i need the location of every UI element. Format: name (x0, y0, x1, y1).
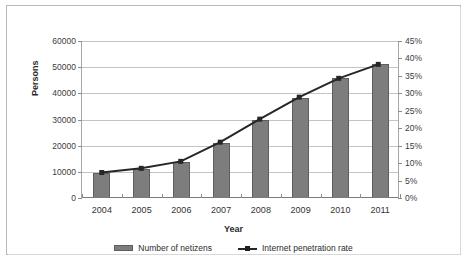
x-axis-tick (360, 194, 361, 198)
x-axis-title: Year (7, 224, 460, 234)
y-axis-tick-label: 10000 (52, 167, 76, 177)
legend-label-netizens: Number of netizens (138, 243, 212, 253)
x-axis-tick-label: 2006 (171, 205, 191, 215)
y2-axis-tick (398, 41, 402, 42)
y2-axis-tick-label: 0% (405, 193, 417, 203)
x-axis-tick-label: 2004 (92, 205, 112, 215)
y2-axis-tick (398, 76, 402, 77)
legend-label-penetration-rate: Internet penetration rate (262, 243, 353, 253)
chart-screenshot: Persons 0100002000030000400005000060000 … (0, 0, 469, 264)
y2-axis-tick (398, 163, 402, 164)
line-marker (139, 166, 144, 171)
x-axis-tick (321, 194, 322, 198)
y2-axis-tick (398, 181, 402, 182)
x-axis-tick-label: 2008 (251, 205, 271, 215)
y-axis-tick-label: 60000 (52, 36, 76, 46)
x-axis-tick-label: 2010 (330, 205, 350, 215)
y-axis-tick-label: 40000 (52, 88, 76, 98)
y2-axis-tick-label: 25% (405, 106, 422, 116)
x-axis-tick (162, 194, 163, 198)
x-axis-tick (122, 194, 123, 198)
y2-axis-tick (398, 198, 402, 199)
x-axis-tick (82, 194, 83, 198)
y-axis-tick (78, 198, 82, 199)
chart-frame: Persons 0100002000030000400005000060000 … (6, 5, 461, 255)
x-axis-tick-label: 2007 (211, 205, 231, 215)
line-marker (376, 62, 381, 67)
y-axis-tick-label: 30000 (52, 115, 76, 125)
y2-axis-tick-label: 35% (405, 71, 422, 81)
y-axis-tick-label: 50000 (52, 62, 76, 72)
line-marker (99, 170, 104, 175)
y2-axis-tick-label: 20% (405, 123, 422, 133)
x-axis-tick (201, 194, 202, 198)
y2-axis-tick (398, 146, 402, 147)
y2-axis-tick-label: 40% (405, 53, 422, 63)
y2-axis-tick-label: 30% (405, 88, 422, 98)
line-series-group (82, 41, 398, 198)
x-axis-tick (281, 194, 282, 198)
x-axis-tick (241, 194, 242, 198)
x-axis-tick-label: 2005 (132, 205, 152, 215)
legend-item-penetration-rate: Internet penetration rate (238, 243, 353, 253)
plot-area: 0100002000030000400005000060000 0%5%10%1… (81, 41, 399, 198)
y-axis-tick-label: 20000 (52, 141, 76, 151)
y2-axis-tick (398, 111, 402, 112)
line-marker (297, 95, 302, 100)
y-axis-tick-label: 0 (71, 193, 76, 203)
y2-axis-tick (398, 128, 402, 129)
y2-axis-tick (398, 58, 402, 59)
y2-axis-tick-label: 5% (405, 176, 417, 186)
x-axis-line (82, 197, 398, 198)
x-axis-tick (400, 194, 401, 198)
legend-item-netizens: Number of netizens (114, 243, 212, 253)
line-marker (178, 159, 183, 164)
line-marker-swatch-icon (238, 245, 257, 252)
y2-axis-tick-label: 15% (405, 141, 422, 151)
chart-legend: Number of netizens Internet penetration … (7, 243, 460, 253)
x-axis-tick-label: 2009 (291, 205, 311, 215)
line-marker (257, 117, 262, 122)
y2-axis-tick-label: 10% (405, 158, 422, 168)
y2-axis-tick-label: 45% (405, 36, 422, 46)
line-marker (336, 76, 341, 81)
x-axis-tick-label: 2011 (370, 205, 389, 215)
y-axis-title: Persons (30, 60, 40, 96)
y2-axis-tick (398, 93, 402, 94)
bar-swatch-icon (114, 245, 133, 251)
line-marker (218, 140, 223, 145)
